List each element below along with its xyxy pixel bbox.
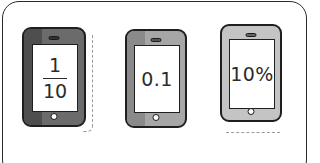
dashed-outline-right — [92, 35, 93, 127]
fraction: 1 10 — [43, 55, 67, 102]
fraction-bar — [43, 78, 67, 80]
dashed-outline-bottom — [226, 132, 280, 133]
phone-fraction-icon: 1 10 — [22, 27, 86, 127]
phone-screen: 10% — [229, 39, 275, 109]
home-button-icon — [51, 113, 58, 120]
phone-percent-icon: 10% — [220, 24, 282, 122]
percent-value: 10% — [230, 63, 274, 85]
phone-screen: 0.1 — [134, 45, 180, 113]
phone-screen: 1 10 — [32, 44, 78, 112]
speaker-icon — [151, 38, 162, 42]
fraction-denominator: 10 — [43, 81, 67, 101]
phone-decimal-icon: 0.1 — [125, 29, 187, 128]
home-button-icon — [248, 108, 255, 115]
speaker-icon — [246, 33, 257, 37]
decimal-value: 0.1 — [141, 68, 173, 90]
speaker-icon — [49, 36, 60, 40]
fraction-numerator: 1 — [49, 55, 61, 75]
home-button-icon — [153, 114, 160, 121]
